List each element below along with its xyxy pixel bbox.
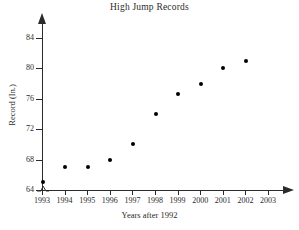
data-point [41,180,45,184]
data-point [244,59,248,63]
data-point [154,112,158,116]
x-axis-tick [200,190,201,195]
y-axis-tick-label: 68 [2,156,34,164]
x-axis-tick [155,190,156,195]
x-axis-tick [245,190,246,195]
x-axis-tick [178,190,179,195]
data-point [108,158,112,162]
x-axis-tick [132,190,133,195]
y-axis-tick [36,38,42,39]
data-point [176,92,180,96]
x-axis-tick [223,190,224,195]
y-axis-tick [36,99,42,100]
y-axis-tick [36,129,42,130]
x-axis-tick [268,190,269,195]
y-axis-tick [36,160,42,161]
chart-title: High Jump Records [0,2,299,12]
data-point [221,66,225,70]
x-axis-tick [65,190,66,195]
y-axis-break-icon [37,184,49,193]
high-jump-records-chart: High Jump Records 646872768084 199319941… [0,0,299,230]
data-point [63,165,67,169]
data-point [86,165,90,169]
y-axis-tick-label: 64 [2,186,34,194]
x-axis-arrowhead [283,186,294,194]
x-axis-title: Years after 1992 [0,210,299,220]
y-axis-arrowhead [38,13,46,24]
x-axis-tick [42,190,43,195]
x-axis-tick [110,190,111,195]
x-axis-tick [87,190,88,195]
y-axis-tick [36,68,42,69]
data-point [131,142,135,146]
data-point [199,82,203,86]
y-axis-line [42,22,43,190]
x-axis-tick-label: 2003 [253,196,283,206]
x-axis-line [36,190,284,191]
y-axis-title: Record (In.) [7,60,17,150]
y-axis-tick-label: 84 [2,34,34,42]
